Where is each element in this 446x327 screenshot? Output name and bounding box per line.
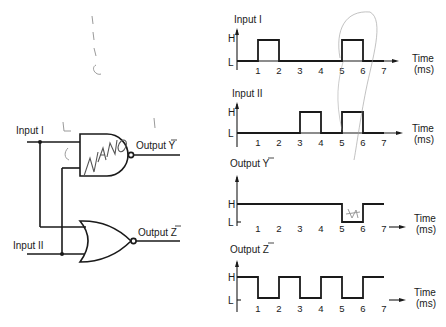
svg-text:4: 4: [318, 137, 323, 148]
svg-text:Time: Time: [414, 287, 436, 298]
svg-text:L: L: [228, 295, 234, 306]
svg-text:H: H: [228, 272, 235, 283]
svg-text:L: L: [228, 128, 234, 139]
svg-text:2: 2: [276, 223, 281, 234]
svg-text:7: 7: [381, 137, 386, 148]
svg-text:3: 3: [297, 223, 302, 234]
input-2-label: Input II: [13, 240, 44, 251]
svg-text:L: L: [228, 57, 234, 68]
svg-text:Time: Time: [412, 123, 434, 134]
svg-text:2: 2: [276, 137, 281, 148]
svg-text:(ms): (ms): [414, 64, 434, 75]
svg-text:1: 1: [255, 303, 260, 314]
tick-labels: 12 34 56 7: [255, 303, 386, 314]
svg-text:6: 6: [360, 65, 365, 76]
svg-text:H: H: [228, 107, 235, 118]
svg-text:3: 3: [297, 65, 302, 76]
svg-text:1: 1: [255, 137, 260, 148]
svg-text:7: 7: [381, 223, 386, 234]
svg-text:H: H: [228, 199, 235, 210]
timing-input-2: Input II H L 12 34 56 7 Time (ms): [228, 88, 434, 148]
pencil-marks: [63, 16, 155, 131]
svg-text:(ms): (ms): [414, 134, 434, 145]
svg-text:(ms): (ms): [416, 224, 436, 235]
chart-title: Input I: [234, 14, 262, 25]
svg-text:7: 7: [381, 303, 386, 314]
svg-text:4: 4: [318, 65, 323, 76]
timing-output-y: Output Y H L 12 34 56 7 Time (ms): [228, 158, 436, 235]
tick-labels: 12 34 56 7: [255, 65, 386, 76]
circuit: Input I Input II Output Y O: [13, 125, 181, 262]
svg-text:6: 6: [360, 137, 365, 148]
svg-text:Time: Time: [412, 53, 434, 64]
svg-text:5: 5: [339, 223, 344, 234]
svg-text:7: 7: [381, 65, 386, 76]
input-1-label: Input I: [16, 125, 44, 136]
svg-text:Time: Time: [414, 213, 436, 224]
svg-text:3: 3: [297, 303, 302, 314]
svg-text:5: 5: [339, 137, 344, 148]
timing-input-1: Input I H L 12 34 56 7 Time (ms): [228, 14, 434, 76]
svg-text:L: L: [228, 217, 234, 228]
output-z-label: Output Z: [138, 227, 177, 238]
chart-title: Output Z: [230, 244, 269, 255]
svg-text:1: 1: [255, 223, 260, 234]
svg-text:2: 2: [276, 303, 281, 314]
timing-output-z: Output Z H L 12 34 56 7 Time (ms): [228, 243, 436, 314]
output-y-label: Output Y: [136, 140, 176, 151]
svg-text:1: 1: [255, 65, 260, 76]
svg-text:H: H: [228, 33, 235, 44]
svg-text:3: 3: [297, 137, 302, 148]
nand-handwritten-annotation: [65, 140, 126, 176]
svg-text:6: 6: [360, 223, 365, 234]
svg-text:2: 2: [276, 65, 281, 76]
chart-title: Input II: [232, 88, 263, 99]
svg-text:5: 5: [339, 303, 344, 314]
tick-labels: 12 34 56 7: [255, 223, 386, 234]
svg-text:(ms): (ms): [416, 298, 436, 309]
tick-labels: 12 34 56 7: [255, 137, 386, 148]
svg-text:4: 4: [318, 303, 323, 314]
chart-title: Output Y: [230, 158, 270, 169]
svg-text:6: 6: [360, 303, 365, 314]
logic-diagram: Input I Input II Output Y O: [0, 0, 446, 327]
svg-text:4: 4: [318, 223, 323, 234]
